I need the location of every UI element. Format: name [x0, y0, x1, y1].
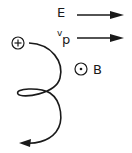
- b-field-label: B: [93, 63, 102, 76]
- positive-charge-icon: [12, 37, 24, 49]
- e-field-arrow: [77, 11, 124, 19]
- b-field-out-of-page-icon: [75, 63, 87, 75]
- e-field-label: E: [57, 6, 65, 19]
- velocity-subscript: p: [62, 33, 70, 46]
- velocity-arrow: [77, 34, 124, 42]
- particle-trajectory: [18, 43, 61, 147]
- diagram-canvas: [0, 0, 132, 153]
